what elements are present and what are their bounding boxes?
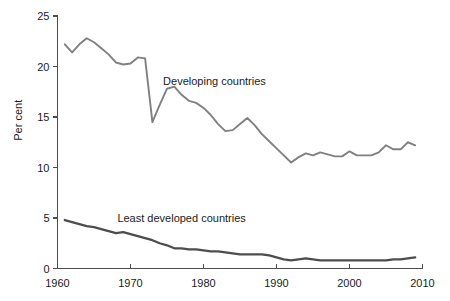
series-line-least-developed-countries (65, 220, 415, 260)
y-axis-tick-labels: 0510152025 (37, 10, 49, 275)
y-tick-label: 25 (37, 10, 49, 22)
x-tick-label: 2000 (337, 277, 361, 289)
x-tick-label: 1980 (191, 277, 215, 289)
y-tick-label: 5 (43, 212, 49, 224)
x-axis-tick-labels: 196019701980199020002010 (45, 277, 434, 289)
y-tick-label: 15 (37, 111, 49, 123)
y-tick-label: 20 (37, 61, 49, 73)
line-chart-figure: 196019701980199020002010 0510152025 Deve… (0, 0, 450, 301)
chart-series-lines (65, 38, 415, 260)
y-tick-label: 0 (43, 263, 49, 275)
axis-spines (58, 16, 423, 269)
y-tick-label: 10 (37, 162, 49, 174)
chart-series-annotations: Developing countriesLeast developed coun… (117, 75, 266, 224)
series-label-least-developed-countries: Least developed countries (117, 212, 246, 224)
chart-axes (58, 16, 423, 269)
y-axis-title: Per cent (12, 100, 24, 141)
series-label-developing-countries: Developing countries (163, 75, 266, 87)
series-line-developing-countries (65, 38, 415, 162)
chart-canvas: 196019701980199020002010 0510152025 Deve… (0, 0, 450, 301)
x-tick-label: 1970 (118, 277, 142, 289)
x-tick-label: 1990 (264, 277, 288, 289)
x-tick-label: 1960 (45, 277, 69, 289)
y-axis-title-text: Per cent (12, 100, 24, 141)
x-tick-label: 2010 (410, 277, 434, 289)
